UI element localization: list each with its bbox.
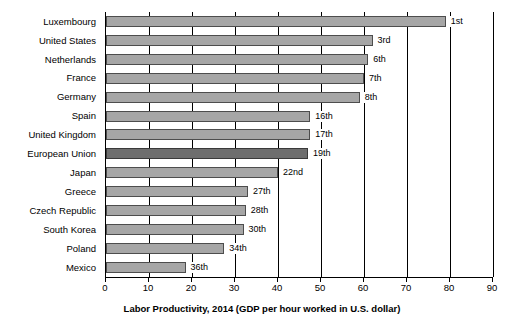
category-label: United Kingdom [0, 126, 101, 145]
bar-rank-label: 30th [248, 224, 268, 235]
bar [106, 148, 308, 159]
x-axis-tick-label: 40 [272, 283, 283, 293]
bar-rank-label: 36th [190, 262, 210, 273]
bar-row: 34th [106, 239, 493, 258]
bar [106, 73, 364, 84]
bar [106, 224, 244, 235]
bar [106, 262, 186, 273]
bars-layer: 1st3rd6th7th8th16th17th19th22nd27th28th3… [106, 12, 493, 277]
bar-rank-label: 7th [368, 73, 383, 84]
category-label: South Korea [0, 220, 101, 239]
category-label: Luxembourg [0, 12, 101, 31]
bar-rank-label: 22nd [282, 167, 304, 178]
category-label: Czech Republic [0, 201, 101, 220]
bar-row: 6th [106, 50, 493, 69]
x-axis-tick-label: 0 [102, 283, 107, 293]
x-axis-title: Labor Productivity, 2014 (GDP per hour w… [0, 303, 524, 314]
bar [106, 16, 446, 27]
bar-rank-label: 19th [312, 148, 332, 159]
x-axis-tick-label: 20 [186, 283, 197, 293]
plot-area: 1st3rd6th7th8th16th17th19th22nd27th28th3… [105, 12, 493, 278]
bar-rank-label: 3rd [377, 35, 392, 46]
category-label: Greece [0, 182, 101, 201]
bar [106, 92, 360, 103]
bar [106, 54, 368, 65]
category-label: Netherlands [0, 50, 101, 69]
bar [106, 35, 373, 46]
x-axis-tick-label: 30 [229, 283, 240, 293]
x-axis-tick-label: 50 [315, 283, 326, 293]
bar-row: 8th [106, 88, 493, 107]
category-label: Spain [0, 107, 101, 126]
category-label: Mexico [0, 258, 101, 277]
bar-rank-label: 28th [250, 205, 270, 216]
bar-row: 3rd [106, 31, 493, 50]
bar-row: 16th [106, 107, 493, 126]
gridline [493, 12, 494, 277]
bar-rank-label: 17th [314, 129, 334, 140]
x-axis-tick-label: 90 [487, 283, 498, 293]
bar [106, 186, 248, 197]
x-axis-tick-label: 70 [401, 283, 412, 293]
bar-rank-label: 34th [228, 243, 248, 254]
bar [106, 167, 278, 178]
bar-chart: LuxembourgUnited StatesNetherlandsFrance… [0, 0, 524, 325]
bar-row: 36th [106, 258, 493, 277]
x-axis-tick-label: 10 [143, 283, 154, 293]
x-axis-tick-label: 80 [444, 283, 455, 293]
category-label: Japan [0, 163, 101, 182]
bar-rank-label: 8th [364, 92, 379, 103]
bar [106, 129, 310, 140]
bar-row: 19th [106, 144, 493, 163]
bar-row: 17th [106, 126, 493, 145]
bar-row: 7th [106, 69, 493, 88]
bar [106, 111, 310, 122]
category-label: European Union [0, 144, 101, 163]
bar-row: 30th [106, 220, 493, 239]
x-axis: 0102030405060708090 [105, 277, 492, 297]
x-axis-tick-label: 60 [358, 283, 369, 293]
bar-row: 27th [106, 182, 493, 201]
bar-rank-label: 1st [450, 16, 464, 27]
bar [106, 243, 224, 254]
bar-row: 28th [106, 201, 493, 220]
category-label: Poland [0, 239, 101, 258]
category-axis: LuxembourgUnited StatesNetherlandsFrance… [0, 12, 101, 277]
bar-rank-label: 27th [252, 186, 272, 197]
bar-row: 1st [106, 12, 493, 31]
category-label: Germany [0, 88, 101, 107]
bar-rank-label: 6th [372, 54, 387, 65]
category-label: France [0, 69, 101, 88]
category-label: United States [0, 31, 101, 50]
bar [106, 205, 246, 216]
bar-rank-label: 16th [314, 111, 334, 122]
bar-row: 22nd [106, 163, 493, 182]
